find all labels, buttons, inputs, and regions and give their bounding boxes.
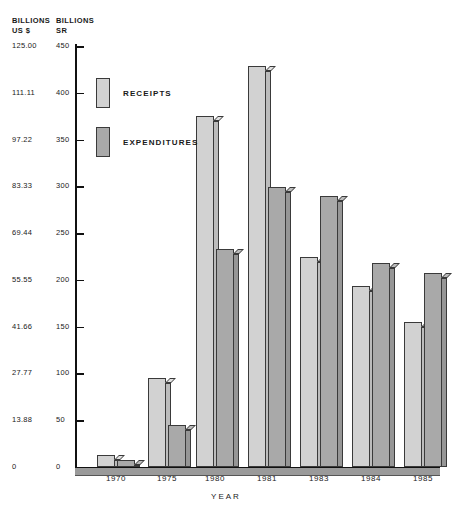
x-tick-label: 1980 (186, 474, 244, 483)
y-tick-label-sr: 350 (56, 135, 82, 144)
bar-receipts (352, 286, 370, 467)
y-tick-label-sr: 400 (56, 88, 82, 97)
x-tick-label: 1984 (342, 474, 400, 483)
bar-chart: BILLIONS US $ BILLIONS SR 125.00450111.1… (0, 0, 452, 527)
legend-label-expenditures: EXPENDITURES (123, 138, 198, 147)
y-tick-label-sr: 50 (56, 415, 82, 424)
bar-expenditures (372, 263, 390, 467)
y-tick-label-usd: 125.00 (12, 41, 52, 50)
bar-receipts (248, 66, 266, 467)
y-axis-line (75, 44, 77, 469)
bar-expenditures (320, 196, 338, 467)
bar-expenditures (424, 273, 442, 467)
y-axis-left-title: BILLIONS US $ (12, 16, 50, 35)
y-tick-label-sr: 300 (56, 181, 82, 190)
y-tick-label-usd: 55.55 (12, 275, 52, 284)
y-axis-right-title: BILLIONS SR (56, 16, 94, 35)
y-tick-label-usd: 69.44 (12, 228, 52, 237)
bar-receipts (97, 455, 115, 467)
legend-item-expenditures: EXPENDITURES (96, 127, 198, 157)
bar-expenditures (117, 460, 135, 467)
y-tick-label-sr: 200 (56, 275, 82, 284)
legend: RECEIPTS EXPENDITURES (96, 78, 198, 176)
y-tick-label-sr: 100 (56, 368, 82, 377)
y-tick-label-usd: 13.88 (12, 415, 52, 424)
x-tick-label: 1970 (87, 474, 145, 483)
bar-receipts (404, 322, 422, 467)
y-tick-label-sr: 250 (56, 228, 82, 237)
y-tick-label-usd: 83.33 (12, 181, 52, 190)
legend-swatch-expenditures (96, 127, 110, 157)
y-tick-label-usd: 0 (12, 462, 52, 471)
y-tick-label-usd: 27.77 (12, 368, 52, 377)
x-axis-title: YEAR (0, 492, 452, 501)
legend-swatch-receipts (96, 78, 110, 108)
y-tick-label-usd: 41.66 (12, 322, 52, 331)
y-tick-label-sr: 450 (56, 41, 82, 50)
y-tick-label-sr: 150 (56, 322, 82, 331)
bar-expenditures (168, 425, 186, 467)
y-tick-label-usd: 97.22 (12, 135, 52, 144)
x-tick-label: 1981 (238, 474, 296, 483)
legend-label-receipts: RECEIPTS (123, 89, 172, 98)
bar-receipts (300, 257, 318, 467)
bar-receipts (196, 116, 214, 467)
bar-receipts (148, 378, 166, 467)
bar-expenditures (216, 249, 234, 467)
y-tick-label-usd: 111.11 (12, 88, 52, 97)
bar-expenditures (268, 187, 286, 467)
x-tick-label: 1983 (290, 474, 348, 483)
x-tick-label: 1985 (394, 474, 452, 483)
legend-item-receipts: RECEIPTS (96, 78, 198, 108)
